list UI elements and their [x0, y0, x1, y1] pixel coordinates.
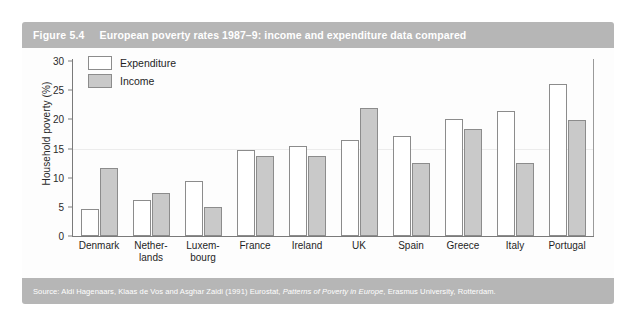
source-prefix: Source: Aldi Hagenaars, Klaas de Vos and… [33, 287, 283, 296]
figure-source-band: Source: Aldi Hagenaars, Klaas de Vos and… [22, 278, 614, 304]
bar-income [412, 163, 430, 237]
income-swatch-icon [88, 74, 112, 88]
expenditure-swatch-icon [88, 56, 112, 70]
x-axis-label-line: UK [329, 240, 389, 252]
x-axis-label-line: Denmark [69, 240, 129, 252]
bar-expenditure [445, 119, 463, 236]
x-axis-label-line: lands [121, 252, 181, 264]
x-axis-label-line: France [225, 240, 285, 252]
x-axis-label: Ireland [277, 240, 337, 252]
legend-label-income: Income [120, 75, 154, 87]
bar-expenditure [237, 150, 255, 236]
x-axis-label: Greece [433, 240, 493, 252]
figure-container: Figure 5.4 European poverty rates 1987–9… [22, 22, 614, 304]
x-axis-label-line: Luxem- [173, 240, 233, 252]
figure-header-inner: Figure 5.4 European poverty rates 1987–9… [33, 22, 466, 48]
x-axis-label: Denmark [69, 240, 129, 252]
figure-number: Figure 5.4 [33, 29, 85, 41]
bar-group [289, 48, 326, 237]
y-tick-label: 20 [34, 114, 64, 125]
plot-area: Household poverty (%) 302520151050 Denma… [22, 48, 614, 278]
x-axis-label-line: bourg [173, 252, 233, 264]
y-tick-label: 30 [34, 56, 64, 67]
y-tick-label: 10 [34, 172, 64, 183]
bar-group [237, 48, 274, 237]
x-axis-label-line: Ireland [277, 240, 337, 252]
x-axis-label: Spain [381, 240, 441, 252]
x-axis-label: Italy [485, 240, 545, 252]
bar-expenditure [497, 111, 515, 236]
x-axis-label: Luxem-bourg [173, 240, 233, 263]
bar-expenditure [341, 140, 359, 236]
x-axis-label: France [225, 240, 285, 252]
bar-income [464, 129, 482, 236]
y-tick-label: 25 [34, 85, 64, 96]
bar-income [100, 168, 118, 236]
chart-legend: Expenditure Income [88, 56, 176, 92]
figure-title: European poverty rates 1987–9: income an… [100, 29, 467, 41]
bar-group [445, 48, 482, 237]
bar-expenditure [81, 209, 99, 236]
bar-income [516, 163, 534, 236]
y-tick-label: 0 [34, 231, 64, 242]
x-axis-label-line: Nether- [121, 240, 181, 252]
bar-income [256, 156, 274, 236]
x-axis-label-line: Spain [381, 240, 441, 252]
bar-expenditure [133, 200, 151, 236]
y-tick-label: 15 [34, 143, 64, 154]
legend-label-expenditure: Expenditure [120, 57, 176, 69]
bar-expenditure [289, 146, 307, 236]
plot-right-border [593, 59, 594, 237]
figure-header-band: Figure 5.4 European poverty rates 1987–9… [22, 22, 614, 48]
bar-income [204, 207, 222, 236]
bar-group [393, 48, 430, 237]
figure-source-text: Source: Aldi Hagenaars, Klaas de Vos and… [22, 287, 496, 296]
bar-expenditure [185, 181, 203, 236]
x-axis-label-line: Italy [485, 240, 545, 252]
x-axis-label: Portugal [537, 240, 597, 252]
bar-group [185, 48, 222, 237]
bar-income [308, 156, 326, 237]
legend-item-expenditure: Expenditure [88, 56, 176, 70]
x-axis-label-line: Portugal [537, 240, 597, 252]
legend-item-income: Income [88, 74, 176, 88]
bar-group [341, 48, 378, 237]
y-tick-label: 5 [34, 201, 64, 212]
bar-expenditure [393, 136, 411, 236]
bar-group [549, 48, 586, 237]
bar-income [568, 120, 586, 236]
source-publication-title: Patterns of Poverty in Europe [283, 287, 384, 296]
x-axis-category-labels: DenmarkNether-landsLuxem-bourgFranceIrel… [73, 240, 593, 276]
x-axis-label-line: Greece [433, 240, 493, 252]
bar-income [152, 193, 170, 236]
bar-group [497, 48, 534, 237]
x-axis-label: Nether-lands [121, 240, 181, 263]
source-suffix: , Erasmus University, Rotterdam. [383, 287, 495, 296]
bar-income [360, 108, 378, 236]
x-axis-label: UK [329, 240, 389, 252]
bar-expenditure [549, 84, 567, 236]
